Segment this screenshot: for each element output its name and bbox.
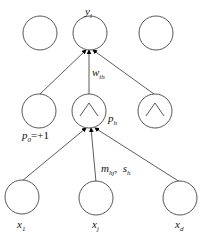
bias-label-p0: p0=+1 (22, 130, 49, 144)
bias-node (22, 94, 56, 128)
input-node-d (163, 181, 197, 215)
input-label-xj: xj (92, 219, 99, 233)
output-node-i (73, 16, 107, 50)
output-label-yi: yi (85, 6, 92, 20)
weight-label-wih: wih (92, 67, 105, 81)
hidden-node-3 (138, 94, 172, 128)
output-node-3 (139, 16, 173, 50)
input-layer (5, 180, 197, 215)
input-label-x1: x1 (17, 219, 25, 233)
hidden-layer (22, 94, 172, 128)
output-layer (23, 16, 173, 50)
input-node-1 (5, 180, 39, 214)
output-node-1 (23, 16, 57, 50)
hidden-node-h (72, 94, 106, 128)
input-label-xd: xd (175, 219, 183, 233)
center-width-label: mhj, sh (101, 163, 130, 177)
rbf-network-diagram (0, 0, 200, 236)
hidden-label-ph: ph (108, 113, 117, 127)
input-node-j (79, 181, 113, 215)
